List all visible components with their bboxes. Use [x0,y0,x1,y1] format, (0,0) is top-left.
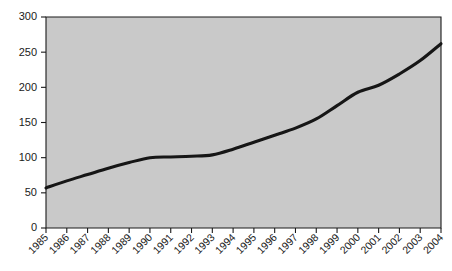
x-tick-label: 2001 [358,231,383,256]
y-tick-label: 250 [19,46,37,58]
x-tick-label: 1996 [254,231,279,256]
x-tick-label: 1987 [67,231,92,256]
y-axis-ticks [41,17,46,228]
y-tick-label: 100 [19,151,37,163]
x-tick-label: 2004 [420,231,445,256]
x-tick-label: 1991 [150,231,175,256]
x-axis-labels: 1985198619871988198919901991199219931994… [25,231,445,256]
x-tick-label: 1997 [275,231,300,256]
plot-background [46,17,441,228]
x-tick-label: 1986 [46,231,71,256]
line-chart: 050100150200250300 198519861987198819891… [0,0,452,271]
x-tick-label: 1995 [233,231,258,256]
x-tick-label: 1985 [25,231,50,256]
chart-canvas: 050100150200250300 198519861987198819891… [0,0,452,271]
x-tick-label: 1989 [109,231,134,256]
x-tick-label: 1999 [316,231,341,256]
x-tick-label: 1994 [213,231,238,256]
x-tick-label: 1998 [296,231,321,256]
y-tick-label: 150 [19,116,37,128]
x-tick-label: 2002 [379,231,404,256]
y-tick-label: 50 [25,186,37,198]
x-tick-label: 2000 [337,231,362,256]
y-axis-labels: 050100150200250300 [19,10,37,233]
x-tick-label: 1988 [88,231,113,256]
x-tick-label: 1992 [171,231,196,256]
y-tick-label: 200 [19,81,37,93]
y-tick-label: 0 [31,221,37,233]
x-tick-label: 2003 [400,231,425,256]
x-tick-label: 1993 [192,231,217,256]
x-tick-label: 1990 [129,231,154,256]
y-tick-label: 300 [19,10,37,22]
